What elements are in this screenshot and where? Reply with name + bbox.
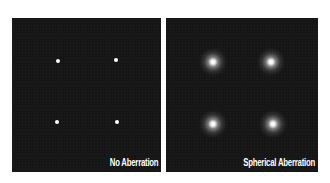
blurred-point-spot [256, 47, 286, 77]
spherical-aberration-panel: Spherical Aberration [166, 18, 318, 172]
point-spot [56, 59, 60, 63]
panel-label: Spherical Aberration [243, 157, 315, 168]
blurred-point-spot [258, 109, 288, 139]
point-spot [115, 120, 119, 124]
panel-label: No Aberration [109, 157, 158, 168]
point-spot [114, 58, 118, 62]
point-spot [55, 120, 59, 124]
blurred-point-spot [198, 109, 228, 139]
blurred-point-spot [198, 47, 228, 77]
no-aberration-panel: No Aberration [12, 18, 161, 172]
